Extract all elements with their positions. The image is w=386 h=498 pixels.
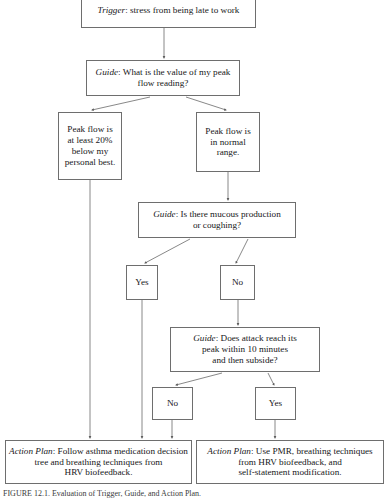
node-peak-flow-low: Peak flow is at least 20% below my perso… [58, 112, 122, 180]
figure-caption: FIGURE 12.1. Evaluation of Trigger, Guid… [3, 489, 383, 498]
node-guide1-text: Guide: What is the value of my peak flow… [93, 67, 234, 89]
edge-guide1-peaklow [92, 97, 150, 110]
node-guide3-text: Guide: Does attack reach its peak within… [190, 333, 300, 366]
node-peak-normal-text: Peak flow is in normal range. [202, 126, 253, 159]
node-action2-text: Action Plan: Use PMR, breathing techniqu… [204, 446, 375, 479]
node-yes2-text: Yes [266, 398, 285, 409]
node-answer-yes-mucous: Yes [126, 265, 158, 300]
node-label-prefix: Guide [153, 209, 175, 219]
node-answer-no-timing: No [152, 387, 193, 420]
edge-guide2-yes1 [145, 239, 190, 263]
node-no2-text: No [164, 398, 181, 409]
edge-guide3-yes2 [268, 373, 274, 385]
edge-guide1-peaknormal [186, 97, 226, 110]
node-no1-text: No [229, 277, 246, 288]
node-guide-mucous-coughing: Guide: Is there mucous production or cou… [138, 202, 296, 238]
node-guide2-text: Guide: Is there mucous production or cou… [150, 209, 284, 231]
node-guide-attack-peak-timing: Guide: Does attack reach its peak within… [170, 327, 320, 372]
node-peak-flow-normal: Peak flow is in normal range. [196, 112, 260, 172]
node-label-prefix: Action Plan [9, 446, 53, 456]
node-yes1-text: Yes [132, 277, 151, 288]
node-action1-text: Action Plan: Follow asthma medication de… [6, 446, 191, 479]
node-action-plan-pmr: Action Plan: Use PMR, breathing techniqu… [196, 440, 384, 484]
node-trigger: Trigger: stress from being late to work [81, 0, 256, 28]
node-label-prefix: Action Plan [207, 446, 251, 456]
node-answer-yes-timing: Yes [255, 387, 296, 420]
node-label-prefix: Trigger [98, 5, 126, 15]
node-peak-low-text: Peak flow is at least 20% below my perso… [62, 124, 119, 167]
node-guide-peak-flow-value: Guide: What is the value of my peak flow… [86, 60, 240, 96]
edge-guide3-no2 [176, 373, 222, 385]
edge-guide2-no1 [236, 239, 248, 263]
node-action-plan-medication: Action Plan: Follow asthma medication de… [5, 440, 192, 484]
flowchart-canvas: Trigger: stress from being late to work … [0, 0, 386, 498]
node-label-prefix: Guide [96, 67, 118, 77]
node-label-prefix: Guide [193, 333, 215, 343]
node-answer-no-mucous: No [220, 265, 255, 300]
node-trigger-text: Trigger: stress from being late to work [95, 5, 243, 16]
